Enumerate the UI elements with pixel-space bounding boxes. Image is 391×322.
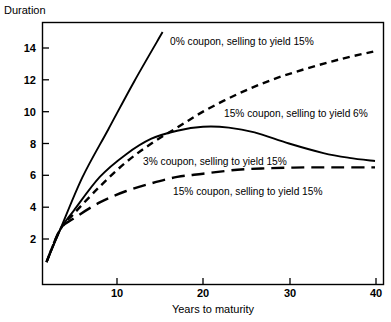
series-label-15pct-yield-6: 15% coupon, selling to yield 6%: [224, 108, 368, 119]
duration-vs-maturity-chart: Duration 14 12 10 8 6 4 2 10 20 30 40 Ye…: [0, 0, 391, 322]
x-tick-label-20: 20: [197, 287, 209, 299]
y-tick-label-12: 12: [24, 74, 36, 86]
y-tick-label-14: 14: [24, 42, 37, 54]
y-tick-label-2: 2: [30, 233, 36, 245]
y-tick-label-6: 6: [30, 169, 36, 181]
x-tick-label-30: 30: [284, 287, 296, 299]
y-tick-label-4: 4: [30, 201, 37, 213]
y-tick-label-10: 10: [24, 106, 36, 118]
x-axis-title: Years to maturity: [172, 303, 255, 315]
y-axis-title: Duration: [4, 4, 46, 16]
series-label-0pct-coupon: 0% coupon, selling to yield 15%: [170, 36, 314, 47]
y-tick-label-8: 8: [30, 138, 36, 150]
series-label-3pct-coupon: 3% coupon, selling to yield 15%: [143, 156, 287, 167]
x-tick-label-10: 10: [111, 287, 123, 299]
series-label-15pct-yield-15: 15% coupon, selling to yield 15%: [173, 186, 323, 197]
x-tick-label-40: 40: [370, 287, 382, 299]
